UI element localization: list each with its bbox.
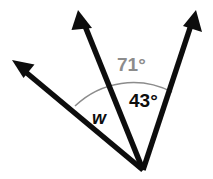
right-ray-arrowhead	[183, 10, 202, 32]
middle-ray-arrowhead	[72, 10, 93, 30]
angle-label-w: w	[92, 109, 106, 127]
angle-label-71: 71°	[117, 55, 146, 74]
angle-diagram: 71° 43° w	[0, 0, 213, 179]
angle-figure-canvas	[0, 0, 213, 179]
angle-label-43: 43°	[129, 91, 158, 110]
